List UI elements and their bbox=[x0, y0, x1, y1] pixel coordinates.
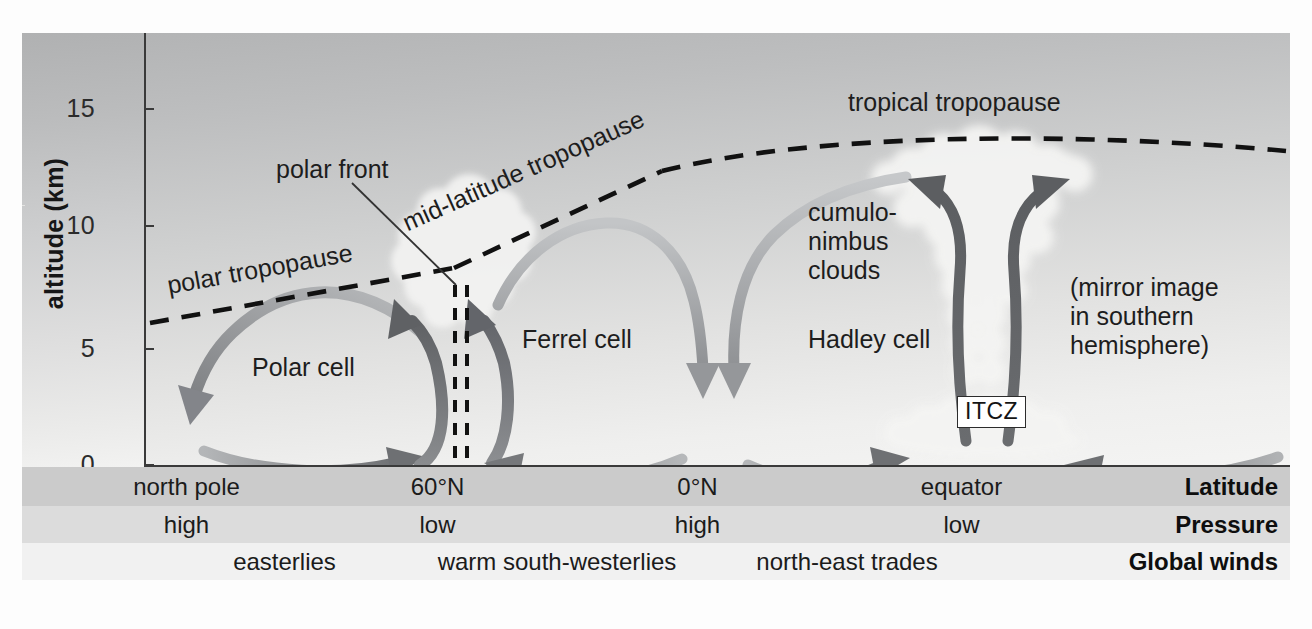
y-tick-0 bbox=[145, 464, 154, 466]
band-row-label-latitude: Latitude bbox=[1185, 467, 1278, 506]
arrowhead-ferrel-descending bbox=[686, 363, 720, 399]
y-tick-15 bbox=[145, 108, 154, 110]
latitude-cell-equator: equator bbox=[864, 467, 1059, 506]
latitude-cell-60n: 60°N bbox=[340, 467, 535, 506]
label-mirror-image-note: (mirror image in southern hemisphere) bbox=[1070, 273, 1219, 360]
y-axis-line bbox=[144, 33, 146, 467]
label-polar-cell: Polar cell bbox=[252, 353, 355, 382]
winds-cell-south-westerlies: warm south-westerlies bbox=[412, 543, 702, 580]
winds-cell-easterlies: easterlies bbox=[187, 543, 382, 580]
y-axis-title: altitude (km) bbox=[40, 84, 69, 384]
pressure-cell-60n: low bbox=[340, 506, 535, 543]
diagram-figure: 15 10 5 0 altitude (km) polar tropopause… bbox=[22, 33, 1290, 580]
label-tropical-tropopause: tropical tropopause bbox=[848, 88, 1061, 117]
latitude-cell-north-pole: north pole bbox=[64, 467, 309, 506]
arrow-ferrel-rising bbox=[484, 321, 508, 463]
label-ferrel-cell: Ferrel cell bbox=[522, 325, 632, 354]
band-row-label-global-winds: Global winds bbox=[1129, 543, 1278, 580]
band-row-label-pressure: Pressure bbox=[1175, 506, 1278, 543]
arrowhead-polar-descending bbox=[178, 385, 214, 425]
pressure-cell-equator: low bbox=[864, 506, 1059, 543]
figure-root: 15 10 5 0 altitude (km) polar tropopause… bbox=[0, 0, 1312, 629]
arrow-polar-rising bbox=[412, 321, 442, 465]
band-pressure: high low high low Pressure bbox=[22, 506, 1290, 543]
pressure-cell-0n: high bbox=[600, 506, 795, 543]
pressure-cell-north-pole: high bbox=[64, 506, 309, 543]
label-hadley-cell: Hadley cell bbox=[808, 325, 930, 354]
y-tick-5 bbox=[145, 348, 154, 350]
winds-cell-north-east-trades: north-east trades bbox=[712, 543, 982, 580]
label-itcz: ITCZ bbox=[957, 396, 1026, 428]
band-global-winds: easterlies warm south-westerlies north-e… bbox=[22, 543, 1290, 580]
y-tick-10 bbox=[145, 225, 154, 227]
caption-remnant bbox=[28, 604, 668, 620]
label-cumulonimbus-clouds: cumulo- nimbus clouds bbox=[808, 198, 897, 285]
band-latitude: north pole 60°N 0°N equator Latitude bbox=[22, 467, 1290, 506]
arrowhead-hadley-descending bbox=[717, 363, 751, 399]
circulation-artwork bbox=[22, 33, 1290, 473]
attribute-bands: north pole 60°N 0°N equator Latitude hig… bbox=[22, 467, 1290, 580]
latitude-cell-0n: 0°N bbox=[600, 467, 795, 506]
label-polar-front: polar front bbox=[276, 155, 389, 184]
